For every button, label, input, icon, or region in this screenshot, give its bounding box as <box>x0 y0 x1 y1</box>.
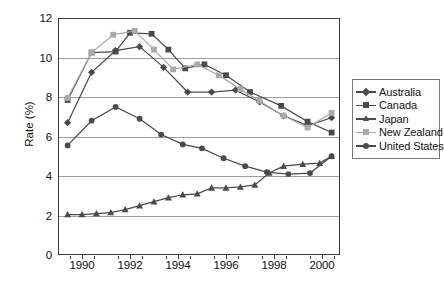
x-axis-tick-labels: 199019921994199619982000 <box>58 259 340 277</box>
x-axis-tick-label: 1994 <box>166 259 191 271</box>
x-axis-tick-label: 1998 <box>262 259 287 271</box>
y-axis-tick-labels: 024681012 <box>26 18 52 255</box>
legend-label: New Zealand <box>379 126 443 138</box>
y-axis-tick-label: 12 <box>40 12 52 24</box>
legend-label: Canada <box>379 99 417 111</box>
y-axis-tick-label: 2 <box>46 210 52 222</box>
y-axis-tick-label: 4 <box>46 170 52 182</box>
legend-swatch-square-icon <box>356 100 376 111</box>
legend-swatch-diamond-icon <box>356 86 376 97</box>
legend-swatch-triangle-icon <box>356 113 376 124</box>
legend-label: United States <box>379 140 444 152</box>
x-axis-tick-label: 1996 <box>214 259 239 271</box>
plot-area <box>58 18 340 255</box>
legend-marker-square-icon <box>363 102 369 108</box>
legend-swatch-square-icon <box>356 127 376 138</box>
x-axis-tick-label: 1990 <box>70 259 95 271</box>
x-axis-tick-label: 2000 <box>310 259 335 271</box>
legend-marker-circle-icon <box>363 143 369 149</box>
legend-item-new-zealand[interactable]: New Zealand <box>356 126 435 140</box>
legend-swatch-circle-icon <box>356 140 376 151</box>
plot-frame <box>58 18 340 255</box>
legend-marker-square-icon <box>363 129 369 135</box>
legend-label: Japan <box>379 113 408 125</box>
chart-root: Rate (%) 024681012 199019921994199619982… <box>0 0 444 294</box>
legend-label: Australia <box>379 86 421 98</box>
legend-item-united-states[interactable]: United States <box>356 139 435 153</box>
legend-item-canada[interactable]: Canada <box>356 99 435 113</box>
y-axis-tick-label: 8 <box>46 91 52 103</box>
legend: AustraliaCanadaJapanNew ZealandUnited St… <box>352 79 440 159</box>
x-axis-tick-label: 1992 <box>118 259 143 271</box>
y-axis-tick-label: 6 <box>46 131 52 143</box>
legend-marker-triangle-icon <box>363 115 369 121</box>
y-axis-tick-label: 10 <box>40 52 52 64</box>
legend-marker-diamond-icon <box>362 88 370 96</box>
legend-item-australia[interactable]: Australia <box>356 85 435 99</box>
legend-item-japan[interactable]: Japan <box>356 112 435 126</box>
y-axis-tick-label: 0 <box>46 249 52 261</box>
